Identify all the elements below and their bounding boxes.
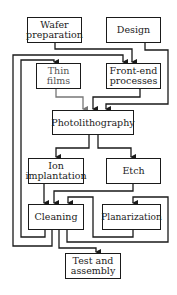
node-etch: Etch: [106, 158, 161, 184]
edge-thinfilms-to-photo: [56, 89, 83, 109]
node-cleaning: Cleaning: [28, 204, 84, 230]
node-wafer-preparation: Wafer preparation: [27, 17, 82, 43]
connector-lines: [0, 0, 177, 295]
node-ion-implantation: Ion implantation: [28, 158, 84, 184]
node-photolithography: Photolithography: [52, 110, 134, 135]
node-test-and-assembly: Test and assembly: [65, 253, 121, 279]
edge-photo-to-etch: [98, 135, 131, 157]
edge-wafer-to-frontend: [55, 43, 132, 62]
node-front-end-processes: Front-end processes: [106, 63, 161, 89]
edge-cleaning-to-test: [59, 230, 96, 252]
node-planarization: Planarization: [102, 204, 161, 230]
node-design: Design: [106, 17, 161, 43]
node-thin-films: Thin films: [36, 63, 81, 89]
edge-photo-to-ion: [56, 135, 89, 157]
edge-frontend-to-photo: [93, 89, 140, 109]
